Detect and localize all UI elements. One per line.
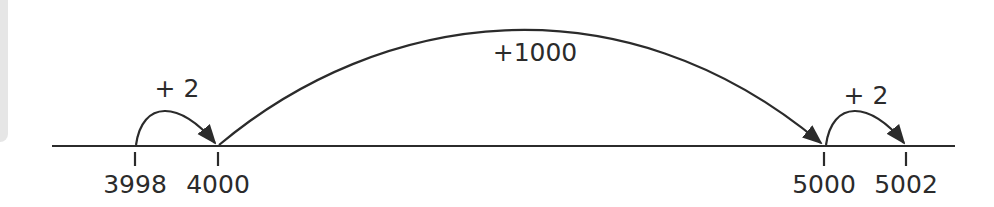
jump-arc-3 xyxy=(826,111,904,145)
number-line-diagram: 3998 4000 5000 5002 + 2 +1000 + 2 xyxy=(0,0,994,207)
jump-label-3: + 2 xyxy=(844,81,889,110)
jump-arc-1 xyxy=(136,111,215,145)
tick-label-5002: 5002 xyxy=(874,170,938,199)
tick-label-4000: 4000 xyxy=(186,170,250,199)
jump-label-2: +1000 xyxy=(493,38,578,67)
jump-label-1: + 2 xyxy=(155,74,200,103)
tick-label-5000: 5000 xyxy=(792,170,856,199)
tick-label-3998: 3998 xyxy=(103,170,167,199)
